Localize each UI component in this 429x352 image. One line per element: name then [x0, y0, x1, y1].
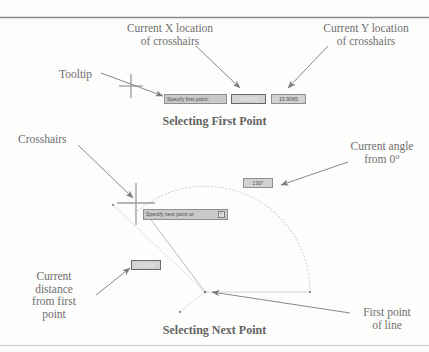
- label-current-x: Current X location of crosshairs: [114, 22, 226, 47]
- label-current-distance-line2: distance: [35, 283, 73, 295]
- label-current-distance-line4: point: [42, 308, 66, 320]
- rubber-band-line: [146, 213, 205, 292]
- leader-tooltip: [101, 73, 163, 96]
- snap-point-bottom: [179, 311, 181, 313]
- tooltip-specify-next-point-label: Specify next point or: [146, 210, 194, 218]
- label-current-y-line1: Current Y location: [323, 22, 408, 34]
- label-current-distance-line1: Current: [36, 270, 71, 282]
- polar-tracking-arc: [135, 186, 310, 292]
- first-point-marker: [204, 291, 207, 294]
- snap-point-left: [112, 204, 114, 206]
- tooltip-x-value[interactable]: 10.8510: [231, 94, 266, 104]
- tooltip-specify-next-point[interactable]: Specify next point or: [143, 209, 228, 220]
- construction-line-bottom: [180, 292, 205, 312]
- label-current-angle: Current angle from 0°: [338, 140, 426, 165]
- label-current-distance: Current distance from first point: [16, 270, 92, 320]
- label-crosshairs: Crosshairs: [18, 133, 67, 146]
- leader-first-point: [212, 292, 350, 313]
- label-current-y-line2: of crosshairs: [337, 35, 395, 47]
- tooltip-y-value[interactable]: 13.9065: [271, 94, 306, 104]
- label-current-angle-line1: Current angle: [351, 140, 414, 152]
- leader-current-angle: [281, 162, 348, 185]
- figure-autocad-dynamic-input: Tooltip Current X location of crosshairs…: [0, 0, 429, 352]
- caption-selecting-first-point: Selecting First Point: [0, 114, 429, 129]
- label-first-point-line1: First point: [363, 306, 411, 318]
- crosshair-cursor-first: [119, 74, 143, 98]
- leader-current-x: [196, 46, 240, 88]
- tooltip-distance-value[interactable]: 5.1816: [131, 260, 161, 270]
- label-tooltip: Tooltip: [59, 68, 92, 81]
- leader-crosshairs: [78, 145, 133, 198]
- label-current-distance-line3: from first: [32, 295, 76, 307]
- tooltip-specify-first-point[interactable]: Specify first point:: [164, 94, 227, 104]
- leader-current-distance: [96, 268, 130, 295]
- label-current-angle-line2: from 0°: [364, 153, 400, 165]
- label-current-x-line1: Current X location: [127, 22, 213, 34]
- chevron-down-icon[interactable]: [218, 211, 225, 218]
- tooltip-angle-value[interactable]: 130°: [243, 178, 273, 188]
- label-current-y: Current Y location of crosshairs: [310, 22, 422, 47]
- label-current-x-line2: of crosshairs: [141, 35, 199, 47]
- snap-point-right: [309, 291, 311, 293]
- leader-current-y: [288, 46, 328, 88]
- caption-selecting-next-point: Selecting Next Point: [0, 323, 429, 338]
